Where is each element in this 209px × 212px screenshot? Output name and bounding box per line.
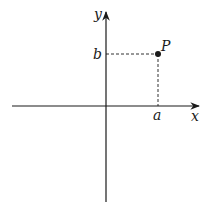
y-axis-label: y — [93, 6, 103, 22]
point-label: P — [160, 38, 171, 54]
coordinate-diagram: y x P b a — [0, 0, 209, 212]
x-coordinate-label: a — [153, 107, 161, 123]
x-axis-label: x — [191, 108, 199, 124]
y-coordinate-label: b — [93, 46, 102, 62]
